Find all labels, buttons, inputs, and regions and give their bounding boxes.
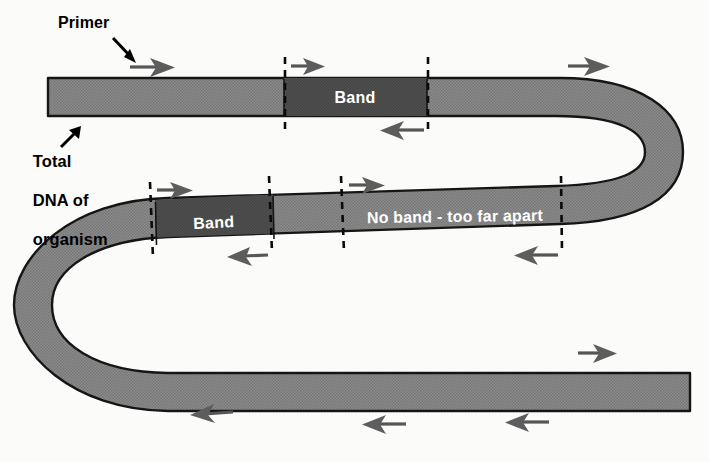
band-mid-left-edge	[156, 202, 157, 245]
total-dna-line-2: DNA of	[33, 191, 89, 209]
band-mid-right-edge	[273, 196, 274, 239]
left-arrow-icon-2	[227, 247, 268, 266]
no-band-label: No band - too far apart	[367, 207, 544, 226]
band-middle-label: Band	[193, 213, 235, 232]
total-dna-label: Total DNA of organism	[14, 133, 108, 269]
right-arrow-icon-6	[578, 344, 617, 363]
total-dna-line-3: organism	[33, 230, 108, 248]
primer-label: Primer	[58, 14, 109, 33]
right-arrow-icon-2	[291, 58, 325, 75]
right-arrow-icon-3	[568, 57, 610, 76]
ribbon-path	[14, 78, 690, 411]
band-top-label: Band	[335, 89, 376, 106]
total-dna-line-1: Total	[33, 152, 72, 170]
left-arrow-icon-5	[362, 415, 406, 434]
left-arrow-icon-1	[380, 121, 424, 140]
right-arrow-icon-1	[130, 58, 175, 77]
pcr-band-diagram: Band Band No band - too far apart	[0, 0, 709, 462]
pointer-arrow-icon-primer	[113, 38, 136, 63]
dna-ribbon	[14, 78, 690, 411]
left-arrow-icon-3	[514, 246, 558, 265]
left-arrow-icon-6	[505, 413, 549, 432]
